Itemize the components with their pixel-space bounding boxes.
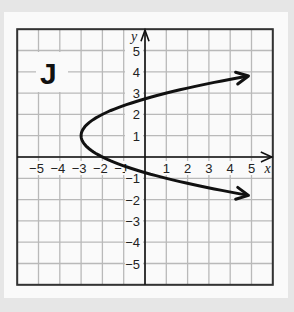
y-tick-label: 2 [133, 107, 140, 122]
y-tick-label: −5 [125, 257, 140, 272]
x-axis-label: x [264, 161, 272, 176]
y-tick-label: 3 [133, 86, 140, 101]
x-tick-label: 4 [227, 161, 234, 176]
y-tick-label: −2 [125, 193, 140, 208]
x-tick-label: −2 [93, 161, 108, 176]
y-tick-label: −1 [125, 171, 140, 186]
y-axis-label: y [129, 29, 138, 44]
panel-label: J [40, 57, 57, 90]
y-tick-label: 1 [133, 129, 140, 144]
x-tick-label: 2 [184, 161, 191, 176]
y-tick-label: 5 [133, 44, 140, 59]
x-tick-label: −5 [29, 161, 44, 176]
y-tick-label: 4 [133, 65, 140, 80]
parabola-graph: −5−4−3−2−11234554321−1−2−3−4−5 x y J [0, 0, 294, 312]
x-tick-label: 1 [163, 161, 170, 176]
y-tick-label: −3 [125, 214, 140, 229]
x-tick-label: 5 [248, 161, 255, 176]
x-tick-label: −3 [72, 161, 87, 176]
y-tick-label: −4 [125, 235, 140, 250]
x-tick-label: −4 [50, 161, 65, 176]
x-tick-label: 3 [205, 161, 212, 176]
